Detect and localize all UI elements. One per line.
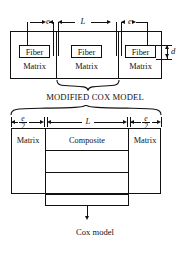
b-arrow-l-right	[123, 120, 127, 124]
cell-divider-2	[118, 31, 119, 79]
frac-numerator: e	[19, 115, 27, 123]
cox-model-pointer-arrow	[85, 216, 89, 220]
b-dim-line-e-left-a	[11, 122, 18, 123]
bottom-matrix-label-right: Matrix	[129, 137, 161, 145]
b-extension-right	[161, 117, 162, 127]
fiber-label-1: Fiber	[19, 49, 50, 57]
composite-divider-1	[45, 150, 129, 151]
dim-line-l-b	[91, 22, 107, 23]
dim-label-l: L	[76, 17, 90, 26]
b-dim-line-l-b	[94, 122, 123, 123]
matrix-label-1: Matrix	[17, 63, 52, 71]
b-dim-line-e-right-a	[130, 122, 141, 123]
d-arrow-down	[165, 54, 169, 58]
frac-numerator: e	[142, 115, 150, 123]
b-extension-e-left-right	[44, 117, 45, 127]
cell-divider-1	[56, 31, 57, 79]
composite-divider-2	[45, 172, 129, 173]
matrix-label-2: Matrix	[69, 63, 104, 71]
expansion-brace	[10, 105, 162, 116]
figure-root: e L e Fiber Matrix Fiber Matrix	[0, 0, 190, 259]
d-extension-bottom	[156, 59, 172, 60]
cox-model-caption: Cox model	[0, 228, 190, 237]
modified-cox-brace	[56, 79, 120, 91]
dim-line-l-a	[62, 22, 75, 23]
dim-line-e-left	[30, 22, 42, 23]
fiber-label-3: Fiber	[125, 49, 156, 57]
b-arrow-e-right-head	[157, 120, 161, 124]
modified-cox-model-caption: MODIFIED COX MODEL	[0, 93, 190, 102]
b-dim-line-l-a	[51, 122, 82, 123]
dim-arrow-l-right	[107, 20, 111, 24]
bottom-matrix-label-left: Matrix	[11, 137, 45, 145]
b-dim-line-e-left-b	[29, 122, 40, 123]
matrix-label-3: Matrix	[123, 63, 158, 71]
dim-label-d: d	[171, 47, 175, 56]
dim-line-e-right	[136, 22, 147, 23]
dim-label-l-bottom: L	[82, 117, 94, 126]
b-arrow-e-left-head	[40, 120, 44, 124]
d-arrow-up	[165, 45, 169, 49]
b-extension-l-right	[127, 117, 128, 127]
composite-divider-3	[45, 194, 129, 195]
fiber-label-2: Fiber	[71, 49, 102, 57]
bottom-composite-label: Composite	[45, 137, 129, 145]
dim-label-e-left: e	[43, 17, 53, 26]
